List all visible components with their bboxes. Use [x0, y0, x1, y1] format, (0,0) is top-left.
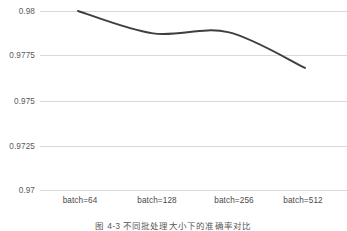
- series-line-accuracy: [78, 11, 305, 68]
- plot-area: 0.98 0.9775 0.975 0.9725 0.97: [0, 0, 347, 200]
- xtick-label-batch-64: batch=64: [63, 196, 98, 205]
- figure-caption: 图 4-3 不同批处理大小下的准确率对比: [0, 219, 347, 231]
- x-axis-labels: batch=64 batch=128 batch=256 batch=512: [40, 196, 347, 210]
- xtick-label-batch-256: batch=256: [214, 196, 253, 205]
- xtick-label-batch-128: batch=128: [137, 196, 176, 205]
- line-chart-figure: 0.98 0.9775 0.975 0.9725 0.97 batch=64 b…: [0, 0, 347, 231]
- xtick-label-batch-512: batch=512: [283, 196, 322, 205]
- series-layer: [0, 0, 347, 200]
